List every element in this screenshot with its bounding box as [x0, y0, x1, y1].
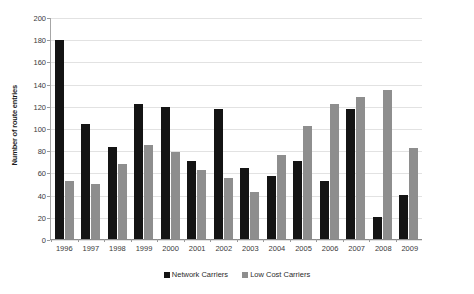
y-axis-tick-labels: 200180160140120100806040200 [22, 18, 46, 240]
x-axis-tick-labels: 1996199719981999200020012002200320042005… [51, 244, 423, 253]
x-tick-mark-2002 [210, 239, 211, 242]
x-tick-label-1997: 1997 [78, 244, 105, 253]
bar-group-1999 [131, 18, 158, 239]
bar-network-1999 [134, 104, 143, 239]
bar-group-2001 [184, 18, 211, 239]
legend-swatch-network-icon [164, 272, 170, 278]
bar-lowcost-2009 [409, 148, 418, 239]
legend-item-network[interactable]: Network Carriers [164, 270, 228, 279]
x-tick-mark-1996 [51, 239, 52, 242]
bar-network-1998 [108, 147, 117, 239]
legend-swatch-lowcost-icon [242, 272, 248, 278]
x-tick-mark-2006 [316, 239, 317, 242]
x-tick-mark-2000 [157, 239, 158, 242]
legend-label-network: Network Carriers [172, 270, 228, 279]
bar-network-1996 [55, 40, 64, 239]
bar-group-2009 [396, 18, 423, 239]
legend-item-lowcost[interactable]: Low Cost Carriers [242, 270, 310, 279]
bar-network-2000 [161, 107, 170, 239]
bar-group-2003 [237, 18, 264, 239]
bar-lowcost-2006 [330, 104, 339, 239]
bar-lowcost-1999 [144, 145, 153, 239]
x-tick-label-2004: 2004 [264, 244, 291, 253]
bar-group-1997 [78, 18, 105, 239]
bar-chart: Number of route entries 2001801601401201… [0, 0, 474, 294]
bar-network-2005 [293, 161, 302, 239]
x-tick-mark-2004 [263, 239, 264, 242]
x-tick-label-2008: 2008 [370, 244, 397, 253]
plot-area [50, 18, 422, 240]
y-tick-label-0: 0 [42, 236, 46, 245]
x-tick-label-2003: 2003 [237, 244, 264, 253]
x-tick-mark-2001 [184, 239, 185, 242]
bar-lowcost-1998 [118, 164, 127, 239]
bar-group-1998 [104, 18, 131, 239]
bar-group-2005 [290, 18, 317, 239]
y-tick-label-160: 160 [33, 58, 46, 67]
y-tick-label-60: 60 [38, 169, 46, 178]
bar-network-2003 [240, 168, 249, 239]
x-tick-label-2005: 2005 [290, 244, 317, 253]
bar-group-2007 [343, 18, 370, 239]
x-tick-label-2009: 2009 [397, 244, 424, 253]
bar-lowcost-1996 [65, 181, 74, 239]
bar-lowcost-2003 [250, 192, 259, 239]
y-tick-label-180: 180 [33, 36, 46, 45]
x-tick-label-1999: 1999 [131, 244, 158, 253]
bar-group-2006 [316, 18, 343, 239]
x-tick-label-2002: 2002 [210, 244, 237, 253]
bar-network-2002 [214, 109, 223, 239]
bar-group-1996 [51, 18, 78, 239]
bar-network-2004 [267, 176, 276, 239]
x-tick-label-2007: 2007 [343, 244, 370, 253]
bar-network-1997 [81, 124, 90, 239]
bar-groups [51, 18, 422, 239]
bar-lowcost-2004 [277, 155, 286, 239]
chart-legend: Network CarriersLow Cost Carriers [0, 270, 474, 279]
y-tick-label-40: 40 [38, 191, 46, 200]
y-tick-label-200: 200 [33, 14, 46, 23]
bar-network-2006 [320, 181, 329, 239]
y-axis-title: Number of route entries [6, 0, 22, 250]
legend-label-lowcost: Low Cost Carriers [250, 270, 310, 279]
bar-lowcost-2008 [383, 90, 392, 239]
x-tick-label-1996: 1996 [51, 244, 78, 253]
bar-lowcost-2005 [303, 126, 312, 239]
x-tick-mark-1999 [131, 239, 132, 242]
x-tick-label-2001: 2001 [184, 244, 211, 253]
x-tick-label-1998: 1998 [104, 244, 131, 253]
y-tick-label-80: 80 [38, 147, 46, 156]
bar-group-2004 [263, 18, 290, 239]
y-tick-label-20: 20 [38, 213, 46, 222]
bar-lowcost-2001 [197, 170, 206, 239]
x-tick-mark-1998 [104, 239, 105, 242]
bar-lowcost-1997 [91, 184, 100, 240]
x-tick-mark-1997 [78, 239, 79, 242]
bar-lowcost-2002 [224, 178, 233, 239]
x-tick-mark-2009 [396, 239, 397, 242]
x-tick-mark-2005 [290, 239, 291, 242]
bar-network-2008 [373, 217, 382, 239]
x-tick-mark-2003 [237, 239, 238, 242]
bar-lowcost-2007 [356, 97, 365, 239]
bar-network-2007 [346, 109, 355, 239]
x-tick-mark-2008 [369, 239, 370, 242]
bar-group-2008 [369, 18, 396, 239]
x-tick-mark-2007 [343, 239, 344, 242]
x-tick-label-2000: 2000 [157, 244, 184, 253]
x-tick-label-2006: 2006 [317, 244, 344, 253]
y-axis-title-label: Number of route entries [10, 85, 19, 165]
bar-group-2002 [210, 18, 237, 239]
bar-group-2000 [157, 18, 184, 239]
y-tick-label-100: 100 [33, 125, 46, 134]
y-tick-label-140: 140 [33, 80, 46, 89]
bar-lowcost-2000 [171, 152, 180, 239]
bar-network-2009 [399, 195, 408, 239]
y-tick-label-120: 120 [33, 102, 46, 111]
bar-network-2001 [187, 161, 196, 239]
